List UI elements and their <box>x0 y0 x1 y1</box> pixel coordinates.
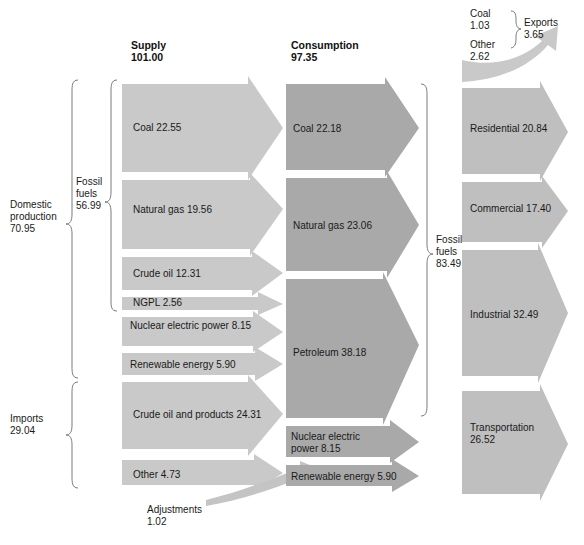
fossil-fuels-supply-bracket-group: Fossil fuels 56.99 <box>76 80 117 311</box>
sector-label-commercial: Commercial 17.40 <box>470 203 552 214</box>
adjustments-label-line1: Adjustments <box>147 504 202 515</box>
consumption-label-coal: Coal 22.18 <box>293 123 342 134</box>
exports-flow-group: Coal 1.03 Other 2.62 Exports 3.65 <box>462 8 558 82</box>
fossil-fuels-supply-bracket <box>105 80 117 311</box>
domestic-production-bracket <box>66 80 78 378</box>
consumption-label-nuclear-line1: Nuclear electric <box>291 431 360 442</box>
consumption-column-title: Consumption <box>291 39 359 51</box>
supply-band-nuclear <box>122 311 283 352</box>
exports-coal-label-line2: 1.03 <box>470 20 490 31</box>
consumption-column-total: 97.35 <box>291 51 317 63</box>
energy-flow-sankey-diagram: Supply 101.00 Consumption 97.35 Coal 22.… <box>0 0 584 545</box>
supply-column-title: Supply <box>131 39 166 51</box>
imports-label-line2: 29.04 <box>10 425 35 436</box>
supply-flow-group: Coal 22.55 Natural gas 19.56 Crude oil 1… <box>122 76 283 491</box>
fossil-fuels-consumption-label-line3: 83.49 <box>436 258 461 269</box>
sector-label-residential: Residential 20.84 <box>470 123 548 134</box>
exports-total-label-line2: 3.65 <box>524 29 544 40</box>
supply-label-crude-oil-and-products: Crude oil and products 24.31 <box>133 409 262 420</box>
imports-label-line1: Imports <box>10 413 43 424</box>
fossil-fuels-consumption-label-line2: fuels <box>436 246 457 257</box>
sector-flow-group: Residential 20.84 Commercial 17.40 Indus… <box>462 81 568 501</box>
supply-label-ngpl: NGPL 2.56 <box>133 297 183 308</box>
supply-label-renewable: Renewable energy 5.90 <box>130 359 236 370</box>
fossil-fuels-consumption-label-line1: Fossil <box>436 234 462 245</box>
supply-label-coal: Coal 22.55 <box>133 122 182 133</box>
imports-bracket <box>66 382 78 488</box>
fossil-fuels-supply-label-line3: 56.99 <box>76 200 101 211</box>
exports-other-label-line1: Other <box>470 39 496 50</box>
exports-coal-label-line1: Coal <box>470 8 491 19</box>
domestic-production-bracket-group: Domestic production 70.95 <box>10 80 78 378</box>
exports-other-label-line2: 2.62 <box>470 51 490 62</box>
adjustments-label-line2: 1.02 <box>147 516 167 527</box>
imports-bracket-group: Imports 29.04 <box>10 382 78 488</box>
fossil-fuels-supply-label-line2: fuels <box>76 188 97 199</box>
domestic-production-label-line1: Domestic <box>10 199 52 210</box>
consumption-label-nuclear-line2: power 8.15 <box>291 443 341 454</box>
fossil-fuels-consumption-bracket-group: Fossil fuels 83.49 <box>421 84 462 416</box>
fossil-fuels-supply-label-line1: Fossil <box>76 176 102 187</box>
exports-bracket <box>511 11 521 48</box>
exports-total-label-line1: Exports <box>524 17 558 28</box>
supply-label-nuclear: Nuclear electric power 8.15 <box>130 320 252 331</box>
supply-label-other: Other 4.73 <box>133 469 181 480</box>
consumption-flow-group: Coal 22.18 Natural gas 23.06 Petroleum 3… <box>286 77 419 492</box>
consumption-label-natural-gas: Natural gas 23.06 <box>293 220 372 231</box>
supply-column-total: 101.00 <box>131 51 163 63</box>
consumption-label-petroleum: Petroleum 38.18 <box>293 347 367 358</box>
supply-label-crude-oil: Crude oil 12.31 <box>133 268 201 279</box>
fossil-fuels-consumption-bracket <box>421 84 433 416</box>
domestic-production-label-line2: production <box>10 211 57 222</box>
sector-label-transportation-line1: Transportation <box>470 422 534 433</box>
supply-label-natural-gas: Natural gas 19.56 <box>133 204 212 215</box>
sector-label-transportation-line2: 26.52 <box>470 434 495 445</box>
consumption-label-renewable: Renewable energy 5.90 <box>291 471 397 482</box>
sector-label-industrial: Industrial 32.49 <box>470 309 539 320</box>
domestic-production-label-line3: 70.95 <box>10 223 35 234</box>
